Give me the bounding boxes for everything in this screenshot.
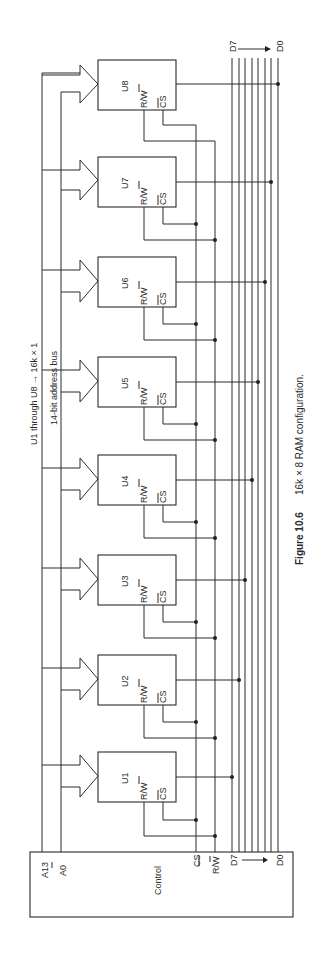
control-label: Control: [153, 866, 163, 895]
figure-number: Figure 10.6: [294, 512, 305, 565]
address-bus-label: 14-bit address bus: [49, 350, 59, 425]
chip-u1: [42, 752, 234, 838]
chip-rw-u2: R/W: [139, 685, 149, 703]
chip-rw-u1: R/W: [139, 782, 149, 800]
figure-caption: 16k × 8 RAM configuration.: [294, 374, 305, 495]
chip-label-u5: U5: [120, 377, 130, 389]
control-a0-label: A0: [58, 865, 68, 876]
chip-u6: [42, 257, 267, 342]
chip-cs-u8: CS: [158, 95, 168, 108]
chip-rw-u8: R/W: [139, 90, 149, 108]
control-d0-label: D0: [275, 854, 285, 866]
chip-rw-u4: R/W: [139, 485, 149, 503]
chip-size-note: U1 through U8 → 16k × 1: [29, 343, 39, 445]
control-d7-label: D7: [229, 854, 239, 866]
chip-label-u7: U7: [120, 177, 130, 189]
data-bottom-label: D0: [275, 40, 285, 52]
chip-cs-u3: CS: [158, 590, 168, 603]
chip-cs-u7: CS: [158, 192, 168, 205]
chip-rw-u7: R/W: [139, 187, 149, 205]
data-bus: [232, 58, 278, 852]
chip-label-u8: U8: [120, 80, 130, 92]
ram-configuration-diagram: D7 D0: [0, 0, 320, 965]
chip-label-u3: U3: [120, 575, 130, 587]
chip-cs-u4: CS: [158, 490, 168, 503]
chip-label-u2: U2: [120, 675, 130, 687]
chip-cs-u5: CS: [158, 392, 168, 405]
chip-cs-u6: CS: [158, 292, 168, 305]
chip-label-u1: U1: [120, 772, 130, 784]
chip-label-u4: U4: [120, 475, 130, 487]
chip-cs-u2: CS: [158, 690, 168, 703]
chip-rw-u6: R/W: [139, 287, 149, 305]
control-a13-label: A13: [40, 862, 50, 878]
control-rw-label: R/W: [211, 856, 221, 874]
data-top-label: D7: [228, 40, 238, 52]
chip-label-u6: U6: [120, 277, 130, 289]
chip-rw-u5: R/W: [139, 387, 149, 405]
chip-cs-u1: CS: [158, 787, 168, 800]
chip-rw-u3: R/W: [139, 585, 149, 603]
chip-u5: [42, 357, 260, 442]
control-cs-label: CS: [192, 854, 202, 867]
